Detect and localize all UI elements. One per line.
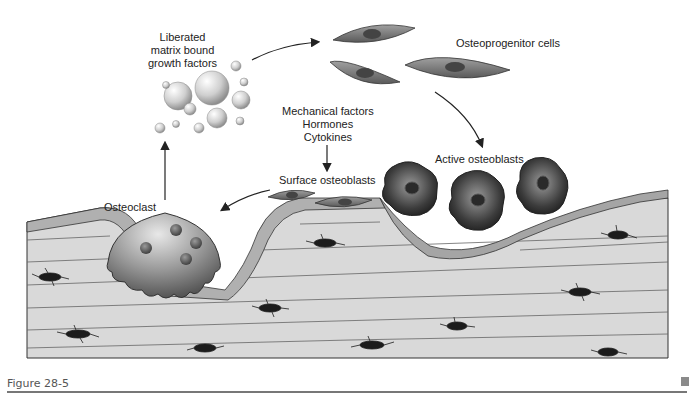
label-line: Cytokines	[282, 131, 374, 144]
label-osteoclast: Osteoclast	[104, 201, 156, 214]
arrow-surface-to-osteoclast	[222, 190, 270, 210]
figure-caption: Figure 28-5	[7, 377, 69, 390]
label-line: matrix bound	[148, 44, 217, 57]
label-osteoprogenitor-cells: Osteoprogenitor cells	[456, 37, 560, 50]
active-osteoblasts	[382, 157, 568, 230]
bone-remodeling-diagram	[0, 0, 694, 396]
label-liberated-factors: Liberated matrix bound growth factors	[148, 31, 217, 70]
arrow-progenitors-to-active	[435, 92, 482, 146]
label-surface-osteoblasts: Surface osteoblasts	[279, 174, 376, 187]
label-active-osteoblasts: Active osteoblasts	[435, 153, 524, 166]
osteoprogenitor-cells	[330, 25, 510, 84]
label-line: growth factors	[148, 57, 217, 70]
label-line: Mechanical factors	[282, 105, 374, 118]
label-regulators: Mechanical factors Hormones Cytokines	[282, 105, 374, 144]
caption-rule	[7, 391, 687, 393]
arrow-factors-to-progenitors	[252, 42, 318, 60]
growth-factor-spheres	[155, 61, 250, 133]
end-mark	[681, 377, 689, 386]
label-line: Liberated	[148, 31, 217, 44]
label-line: Hormones	[282, 118, 374, 131]
